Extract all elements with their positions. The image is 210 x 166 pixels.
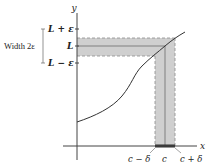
label-L-minus-eps: L − ε [47,58,74,68]
leader-c-plus-delta [175,148,181,153]
label-c-plus-delta: c + δ [180,154,202,164]
x-axis-label: x [200,141,205,151]
label-L: L [66,41,73,51]
label-c-minus-delta: c − δ [128,154,150,164]
bracket-label: Width 2ε [4,41,35,51]
label-L-plus-eps: L + ε [47,24,74,34]
y-axis-label: y [70,3,77,13]
epsilon-delta-diagram: y x L + ε L L − ε Width 2ε c − δ c c + δ [0,0,210,166]
leader-c-minus-delta [150,148,155,153]
label-c: c [162,154,167,164]
